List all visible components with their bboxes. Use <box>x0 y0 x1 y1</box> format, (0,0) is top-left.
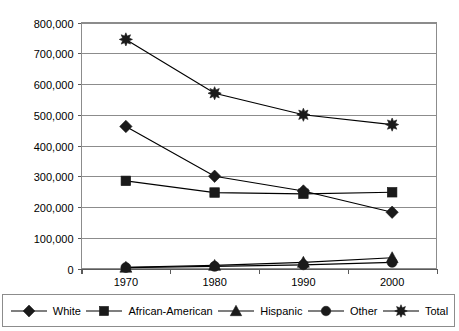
legend-label: Other <box>348 305 378 317</box>
data-point-marker <box>121 263 131 273</box>
data-point-marker <box>208 87 221 100</box>
data-point-marker <box>387 257 397 267</box>
series-markers-group <box>119 33 398 273</box>
y-tick-label: 300,000 <box>34 171 74 183</box>
legend-entry: White <box>9 302 81 320</box>
legend-entry: Total <box>381 302 448 320</box>
legend-marker-square-icon <box>84 302 124 320</box>
legend-label: White <box>51 305 81 317</box>
data-point-marker <box>299 189 309 199</box>
data-point-marker <box>297 108 310 121</box>
gridlines-group <box>82 23 437 274</box>
data-point-marker <box>119 33 132 46</box>
data-point-marker <box>120 120 132 132</box>
y-tick-label: 100,000 <box>34 233 74 245</box>
legend-marker-star-icon <box>381 302 421 320</box>
data-point-marker <box>121 176 131 186</box>
x-tick-label: 1970 <box>114 276 138 288</box>
legend-marker-circle-icon <box>306 302 346 320</box>
y-tick-label: 0 <box>67 264 73 276</box>
legend-label: African-American <box>126 305 212 317</box>
legend-marker-diamond-icon <box>9 302 49 320</box>
legend-label: Total <box>423 305 448 317</box>
y-tick-label: 600,000 <box>34 79 74 91</box>
legend-marker-triangle-icon <box>216 302 256 320</box>
data-point-marker <box>386 118 399 131</box>
legend-label: Hispanic <box>258 305 302 317</box>
series-lines-group <box>126 39 392 267</box>
y-tick-label: 700,000 <box>34 48 74 60</box>
y-tick-marks <box>78 24 82 270</box>
data-point-marker <box>298 260 308 270</box>
chart-canvas: 0100,000200,000300,000400,000500,000600,… <box>0 0 459 293</box>
y-tick-label: 500,000 <box>34 110 74 122</box>
y-tick-label: 200,000 <box>34 202 74 214</box>
y-tick-label: 800,000 <box>34 18 74 30</box>
data-point-marker <box>387 187 397 197</box>
legend-entry: African-American <box>84 302 212 320</box>
x-tick-label: 2000 <box>380 276 404 288</box>
series-line <box>126 262 392 267</box>
data-point-marker <box>210 188 220 198</box>
legend-entry: Hispanic <box>216 302 302 320</box>
x-tick-label: 1980 <box>202 276 226 288</box>
line-chart: 0100,000200,000300,000400,000500,000600,… <box>0 0 459 331</box>
y-tick-label: 400,000 <box>34 141 74 153</box>
data-point-marker <box>208 170 220 182</box>
y-axis-tick-labels: 0100,000200,000300,000400,000500,000600,… <box>34 18 74 276</box>
chart-legend: WhiteAfrican-AmericanHispanicOtherTotal <box>2 294 455 327</box>
data-point-marker <box>210 261 220 271</box>
series-line <box>126 126 392 212</box>
x-tick-label: 1990 <box>291 276 315 288</box>
legend-entry: Other <box>306 302 378 320</box>
plot-border <box>82 23 437 269</box>
plot-area: 0100,000200,000300,000400,000500,000600,… <box>0 0 459 293</box>
series-line <box>126 39 392 124</box>
x-axis-tick-labels: 1970198019902000 <box>114 276 405 288</box>
series-line <box>126 181 392 194</box>
